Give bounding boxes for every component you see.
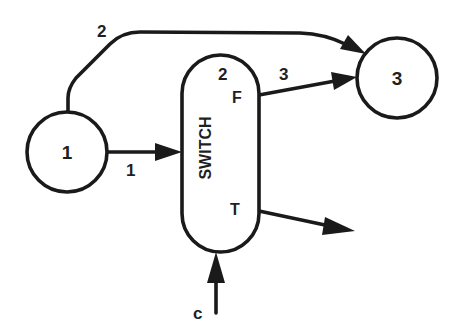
edge-1-label: 1 — [126, 161, 135, 180]
switch-label: SWITCH — [197, 116, 214, 179]
edge-1-arrowhead — [155, 143, 182, 161]
edge-true-arrowhead — [322, 217, 355, 235]
edge-2-label: 2 — [97, 22, 106, 41]
switch-port-number: 2 — [218, 65, 227, 84]
switch-dataflow-diagram: 2 1 3 c 1 3 SWITCH 2 F T — [0, 0, 457, 336]
edge-3-label: 3 — [279, 65, 288, 84]
edge-control-arrowhead — [207, 252, 225, 283]
edge-2-arrowhead — [340, 35, 366, 54]
edge-true-output — [259, 211, 355, 235]
edge-3: 3 — [259, 65, 357, 95]
switch-port-true: T — [230, 201, 240, 218]
edge-control-label: c — [193, 304, 202, 323]
switch-port-false: F — [232, 89, 242, 106]
edge-1: 1 — [107, 143, 182, 180]
node-1-label: 1 — [62, 142, 73, 163]
node-3-label: 3 — [392, 68, 403, 89]
edge-3-arrowhead — [331, 72, 357, 90]
node-1: 1 — [27, 112, 107, 192]
node-3: 3 — [357, 38, 437, 118]
edge-control: c — [193, 252, 225, 323]
switch-node: SWITCH 2 F T — [182, 55, 259, 252]
